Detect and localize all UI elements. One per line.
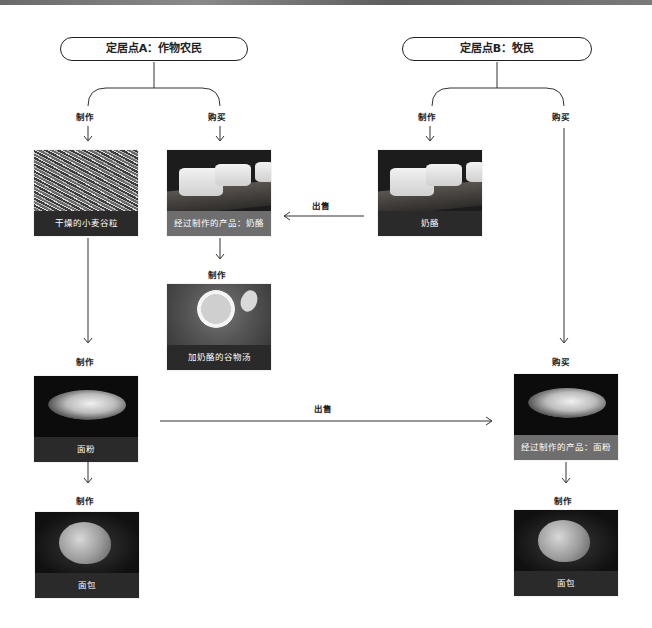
card-cheese-grain-soup: 加奶酪的谷物汤: [167, 284, 271, 370]
card-caption: 奶酪: [378, 211, 482, 236]
card-cheese: 奶酪: [378, 150, 482, 236]
cheese-image-icon: [378, 150, 482, 211]
card-bread-a: 面包: [35, 512, 139, 598]
card-caption: 干燥的小麦谷粒: [34, 211, 138, 236]
card-dried-wheat: 干燥的小麦谷粒: [34, 150, 138, 236]
card-bread-b: 面包: [514, 510, 618, 596]
settlement-b-header: 定居点B：牧民: [402, 37, 592, 61]
label-a-make: 制作: [76, 110, 94, 122]
card-caption: 面包: [514, 571, 618, 596]
cheese-image-icon: [167, 150, 271, 211]
card-caption: 经过制作的产品：奶酪: [167, 211, 271, 236]
wheat-image-icon: [34, 150, 138, 211]
label-b-make: 制作: [418, 110, 436, 122]
flour-image-icon: [514, 374, 618, 435]
card-caption: 经过制作的产品：面粉: [514, 435, 618, 460]
flour-image-icon: [34, 376, 138, 437]
card-caption: 加奶酪的谷物汤: [167, 345, 271, 370]
label-a-buy: 购买: [208, 110, 226, 122]
label-make-soup: 制作: [208, 268, 226, 280]
card-caption: 面粉: [34, 437, 138, 462]
settlement-a-header: 定居点A：作物农民: [60, 37, 248, 61]
bread-image-icon: [35, 512, 139, 573]
label-b-buy: 购买: [552, 110, 570, 122]
label-make-bread-a: 制作: [76, 494, 94, 506]
label-sell-flour: 出售: [314, 402, 332, 414]
card-flour-product: 经过制作的产品：面粉: [514, 374, 618, 460]
settlement-a-title: 定居点A：作物农民: [106, 42, 203, 55]
soup-image-icon: [167, 284, 271, 345]
label-make-flour: 制作: [76, 355, 94, 367]
label-sell-cheese: 出售: [312, 199, 330, 211]
card-caption: 面包: [35, 573, 139, 598]
card-cheese-product: 经过制作的产品：奶酪: [167, 150, 271, 236]
label-make-bread-b: 制作: [554, 494, 572, 506]
label-buy-flour: 购买: [552, 355, 570, 367]
bread-image-icon: [514, 510, 618, 571]
settlement-b-title: 定居点B：牧民: [460, 42, 534, 55]
card-flour: 面粉: [34, 376, 138, 462]
